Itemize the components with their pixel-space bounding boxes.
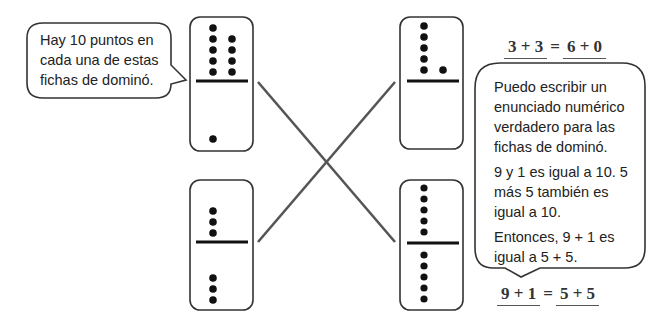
domino-3-3 [190, 180, 253, 310]
equals-sign: = [543, 284, 553, 303]
left-bubble-text: Hay 10 puntos en cada una de estas ficha… [40, 30, 170, 90]
equation-top-left-blank: 3 + 3 [504, 37, 547, 59]
right-bubble-line: enunciado numérico [494, 97, 644, 117]
right-bubble-line: más 5 también es [494, 182, 644, 202]
right-bubble-paragraph-3: Entonces, 9 + 1 es igual a 5 + 5. [494, 227, 644, 267]
right-bubble-paragraph-1: Puedo escribir un enunciado numérico ver… [494, 77, 644, 157]
right-bubble-text: Puedo escribir un enunciado numérico ver… [494, 77, 644, 272]
right-bubble-line: Entonces, 9 + 1 es [494, 227, 644, 247]
right-bubble-paragraph-2: 9 y 1 es igual a 10. 5 más 5 también es … [494, 162, 644, 222]
domino-9-1 [190, 17, 253, 151]
equation-bottom-right-blank: 5 + 5 [556, 284, 599, 306]
equation-top: 3 + 3=6 + 0 [504, 37, 606, 59]
domino-6-0 [400, 17, 463, 149]
right-bubble-line: 9 y 1 es igual a 10. 5 [494, 162, 644, 182]
equation-bottom: 9 + 1=5 + 5 [497, 284, 599, 306]
right-bubble-line: verdadero para las [494, 117, 644, 137]
left-bubble-line: Hay 10 puntos en [40, 30, 170, 50]
domino-5-5 [400, 180, 463, 310]
left-bubble-line: cada una de estas [40, 50, 170, 70]
equation-top-right-blank: 6 + 0 [563, 37, 606, 59]
right-bubble-line: fichas de dominó. [494, 137, 644, 157]
right-bubble-line: igual a 10. [494, 202, 644, 222]
right-bubble-line: Puedo escribir un [494, 77, 644, 97]
domino-matching-diagram: Hay 10 puntos en cada una de estas ficha… [0, 0, 668, 331]
right-bubble-line: igual a 5 + 5. [494, 247, 644, 267]
equals-sign: = [550, 37, 560, 56]
equation-bottom-left-blank: 9 + 1 [497, 284, 540, 306]
left-bubble-line: fichas de dominó. [40, 70, 170, 90]
